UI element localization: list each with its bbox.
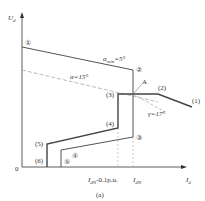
point-a-leader <box>133 84 142 94</box>
marker-inv-4: (4) <box>106 120 115 128</box>
marker-inv-5: (5) <box>35 140 44 148</box>
vdcol-characteristic-diagram: Ud Id 0 IdN-0.1p.u. IdN αmin=5° α=15° γ=… <box>0 0 205 201</box>
alpha-min-label: αmin=5° <box>103 55 125 64</box>
marker-inv-3: (3) <box>106 91 115 99</box>
alpha-15-dashed-line <box>22 70 158 102</box>
x-axis-arrow-icon <box>181 165 187 169</box>
marker-rect-2: ② <box>136 66 142 74</box>
tick-idn: IdN <box>132 176 142 185</box>
y-axis-arrow-icon <box>20 12 24 18</box>
marker-inv-6: (6) <box>35 157 44 165</box>
point-a-label: A <box>142 78 147 86</box>
gamma-label: γ=17° <box>148 110 165 118</box>
origin-label: 0 <box>15 165 19 173</box>
marker-inv-2: (2) <box>158 84 167 92</box>
y-axis-label: Ud <box>8 14 16 23</box>
alpha-15-label: α=15° <box>70 73 88 81</box>
inverter-characteristic <box>47 94 192 167</box>
tick-idn-minus: IdN-0.1p.u. <box>87 176 118 185</box>
marker-inv-1: (1) <box>192 97 201 105</box>
marker-rect-3: ③ <box>136 134 142 142</box>
marker-rect-1: ① <box>25 39 31 47</box>
x-axis-label: Id <box>185 176 191 185</box>
marker-rect-5: ⑤ <box>64 158 70 166</box>
rectifier-characteristic <box>22 47 133 167</box>
figure-caption: (a) <box>96 191 104 199</box>
marker-rect-4: ④ <box>72 152 78 160</box>
